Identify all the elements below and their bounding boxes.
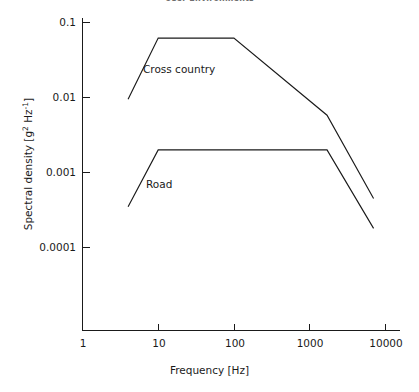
series-annotation-road: Road	[146, 178, 172, 190]
y-axis-title-mid: Hz	[22, 109, 34, 126]
series-annotation-cross-country: Cross country	[143, 63, 215, 75]
chart-figure: User Environments 0.1 0.01 0.001 0.0001 …	[0, 0, 419, 392]
x-tick-marks	[83, 324, 386, 331]
y-axis-title-end: ]	[22, 98, 34, 102]
plot-area	[0, 0, 419, 392]
y-tick-marks	[83, 23, 90, 248]
x-tick-label-0: 1	[62, 337, 104, 349]
y-axis-title-base: Spectral density [g	[22, 131, 34, 230]
y-axis-title-sup-2: -1	[21, 102, 30, 109]
y-tick-label-0: 0.1	[18, 16, 76, 28]
x-axis-title: Frequency [Hz]	[0, 364, 419, 376]
x-tick-label-1: 10	[138, 337, 180, 349]
x-tick-label-3: 1000	[289, 337, 331, 349]
y-axis-title-sup-1: 2	[21, 126, 30, 131]
x-tick-label-4: 10000	[364, 337, 408, 349]
y-axis-title: Spectral density [g2 Hz-1]	[22, 59, 34, 269]
x-tick-label-2: 100	[214, 337, 256, 349]
